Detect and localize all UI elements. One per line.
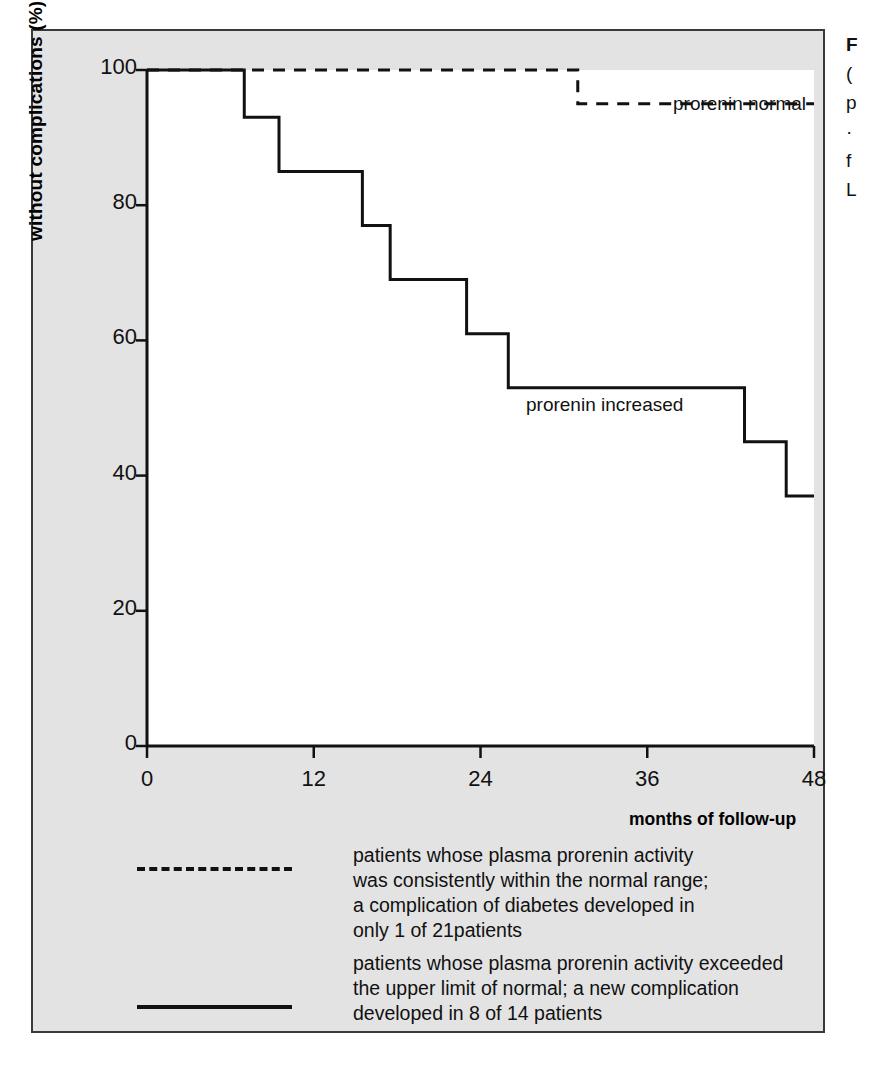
legend-swatch-solid — [137, 1005, 292, 1009]
caption-fragment: p — [846, 88, 881, 117]
series-label-prorenin-normal: prorenin normal — [673, 93, 806, 115]
x-axis-title: months of follow-up — [629, 809, 796, 830]
figure-panel: without complications (%) 100806040200 0… — [31, 29, 825, 1033]
series-path-prorenin-increased — [147, 70, 814, 496]
legend-entry-increased: patients whose plasma prorenin activity … — [33, 951, 827, 1009]
series-label-prorenin-increased: prorenin increased — [526, 394, 683, 416]
caption-fragment: f — [846, 146, 881, 175]
caption-fragment: F — [846, 30, 881, 59]
legend: patients whose plasma prorenin activity … — [33, 843, 827, 1009]
legend-swatch-dashed — [137, 867, 292, 871]
data-series — [147, 70, 814, 496]
tick-marks — [136, 70, 814, 758]
caption-fragment: L — [846, 175, 881, 204]
caption-fragment: · — [846, 117, 881, 146]
legend-text-increased: patients whose plasma prorenin activity … — [353, 951, 783, 1026]
legend-text-normal: patients whose plasma prorenin activity … — [353, 843, 709, 943]
caption-fragment: ( — [846, 59, 881, 88]
caption-column: F(p·fL — [846, 30, 881, 230]
legend-entry-normal: patients whose plasma prorenin activity … — [33, 843, 827, 901]
axis-lines — [147, 70, 814, 746]
